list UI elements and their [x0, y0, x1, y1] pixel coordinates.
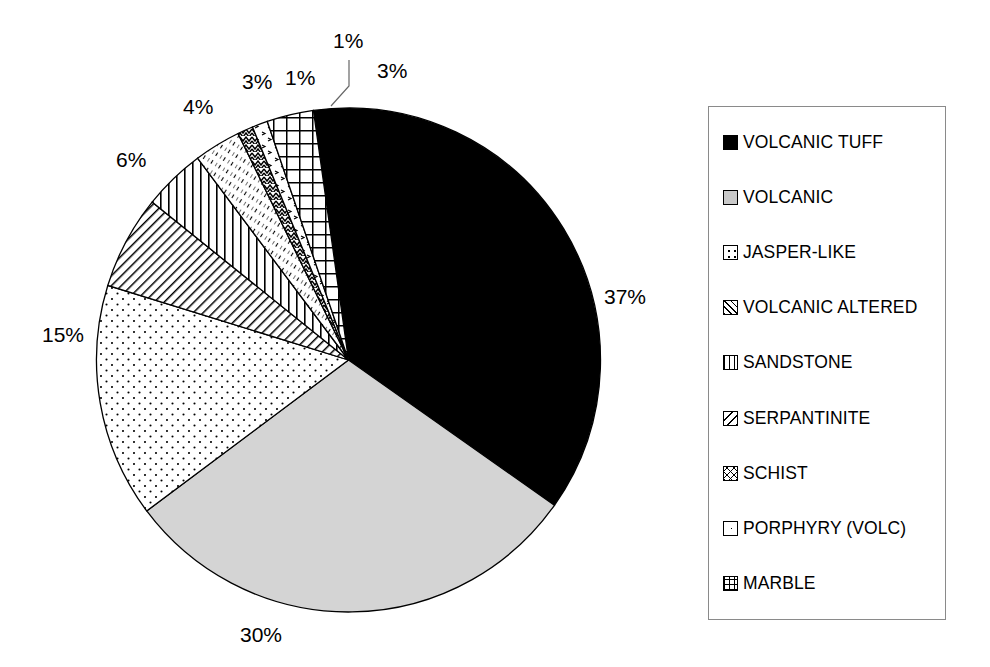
legend-item-volcanic[interactable]: VOLCANIC — [723, 183, 947, 213]
legend-item-jasper-like[interactable]: JASPER-LIKE — [723, 238, 947, 268]
legend-item-volcanic-altered[interactable]: VOLCANIC ALTERED — [723, 293, 947, 323]
pie-label-porphyry: 1% — [333, 30, 363, 51]
pie-label-volcanic-altered: 6% — [116, 149, 146, 170]
legend-list: VOLCANIC TUFFVOLCANICJASPER-LIKEVOLCANIC… — [723, 107, 947, 619]
leader-line-porphyry — [331, 60, 349, 106]
pie-label-schist: 1% — [285, 67, 315, 88]
pie-label-serpantinite: 3% — [242, 71, 272, 92]
legend-swatch-diagonal-hatch-icon — [723, 300, 738, 315]
legend-swatch-grid-crosshatch-icon — [723, 576, 738, 591]
pie-label-volcanic: 30% — [240, 624, 282, 645]
pie-chart-figure: 37% 30% 15% 6% 4% 3% 1% 1% 3% VOLCANIC T… — [0, 0, 990, 667]
legend-item-schist[interactable]: SCHIST — [723, 458, 947, 488]
legend-box: VOLCANIC TUFFVOLCANICJASPER-LIKEVOLCANIC… — [708, 106, 946, 620]
legend-label-volcanic-tuff: VOLCANIC TUFF — [743, 132, 883, 153]
pie-label-sandstone: 4% — [183, 96, 213, 117]
legend-label-porphyry-volc: PORPHYRY (VOLC) — [743, 518, 906, 539]
legend-swatch-zigzag-icon — [723, 466, 738, 481]
legend-swatch-sparse-dots-icon — [723, 245, 738, 260]
pie-label-jasper-like: 15% — [42, 324, 84, 345]
legend-label-jasper-like: JASPER-LIKE — [743, 242, 856, 263]
legend-label-serpantinite: SERPANTINITE — [743, 408, 870, 429]
legend-item-serpantinite[interactable]: SERPANTINITE — [723, 403, 947, 433]
legend-label-volcanic-altered: VOLCANIC ALTERED — [743, 297, 917, 318]
legend-swatch-solid-black-icon — [723, 135, 738, 150]
legend-swatch-sparse-marks-icon — [723, 521, 738, 536]
pie-slices-group — [97, 108, 601, 612]
legend-swatch-fine-diagonal-hatch-icon — [723, 411, 738, 426]
legend-label-volcanic: VOLCANIC — [743, 187, 833, 208]
legend-item-volcanic-tuff[interactable]: VOLCANIC TUFF — [723, 128, 947, 158]
legend-label-sandstone: SANDSTONE — [743, 352, 853, 373]
pie-label-volcanic-tuff: 37% — [604, 286, 646, 307]
legend-label-marble: MARBLE — [743, 573, 816, 594]
legend-item-marble[interactable]: MARBLE — [723, 568, 947, 598]
legend-item-porphyry-volc[interactable]: PORPHYRY (VOLC) — [723, 513, 947, 543]
legend-swatch-vertical-lines-icon — [723, 355, 738, 370]
pie-label-marble: 3% — [377, 60, 407, 81]
legend-item-sandstone[interactable]: SANDSTONE — [723, 348, 947, 378]
legend-label-schist: SCHIST — [743, 463, 808, 484]
legend-swatch-solid-light-gray-icon — [723, 190, 738, 205]
